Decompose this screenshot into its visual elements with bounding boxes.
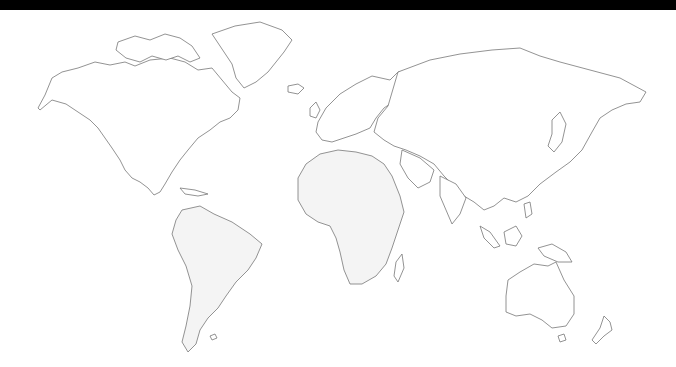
region-united-kingdom (310, 102, 320, 118)
region-arctic-islands (116, 34, 200, 62)
region-caribbean (180, 188, 208, 196)
region-tasmania (558, 334, 566, 342)
region-new-guinea (538, 244, 572, 262)
region-south-america (172, 206, 262, 352)
region-falklands (210, 334, 217, 340)
region-philippines (524, 202, 532, 218)
region-north-america (38, 58, 240, 195)
region-borneo (504, 226, 522, 246)
region-asia (374, 48, 646, 210)
region-new-zealand (592, 316, 612, 344)
region-iceland (288, 84, 304, 94)
region-africa (298, 150, 404, 284)
region-greenland (212, 22, 292, 88)
world-map (0, 10, 676, 367)
top-black-bar (0, 0, 676, 10)
region-australia (506, 262, 574, 328)
region-madagascar (394, 254, 404, 282)
region-sumatra (480, 226, 500, 248)
